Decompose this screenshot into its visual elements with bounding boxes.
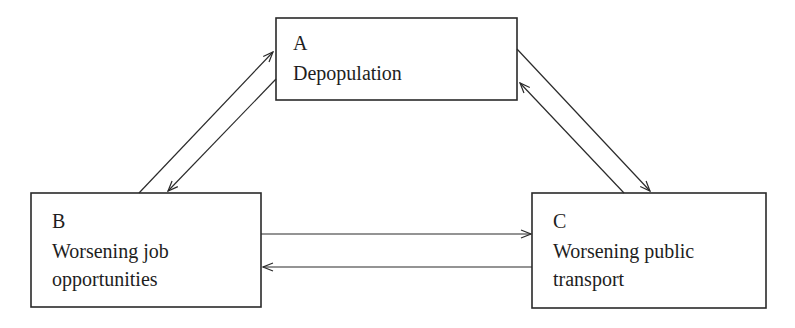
node-c-letter: C bbox=[553, 210, 566, 232]
node-b-worsening-job-opportunities: B Worsening job opportunities bbox=[31, 193, 261, 307]
arrow-b-to-a bbox=[139, 52, 273, 193]
arrow-c-to-a bbox=[520, 83, 624, 193]
node-b-label-line2: opportunities bbox=[52, 268, 158, 291]
node-a-depopulation: A Depopulation bbox=[276, 18, 517, 100]
node-a-letter: A bbox=[293, 32, 308, 54]
arrow-a-to-b bbox=[168, 79, 276, 191]
arrow-a-to-c bbox=[517, 49, 650, 191]
node-b-letter: B bbox=[52, 210, 65, 232]
node-b-label-line1: Worsening job bbox=[52, 240, 169, 263]
node-a-box bbox=[276, 18, 517, 100]
node-a-label: Depopulation bbox=[293, 62, 402, 85]
node-c-label-line1: Worsening public bbox=[553, 240, 694, 263]
node-c-worsening-public-transport: C Worsening public transport bbox=[532, 193, 766, 308]
node-c-label-line2: transport bbox=[553, 268, 625, 291]
feedback-diagram: A Depopulation B Worsening job opportuni… bbox=[0, 0, 795, 328]
